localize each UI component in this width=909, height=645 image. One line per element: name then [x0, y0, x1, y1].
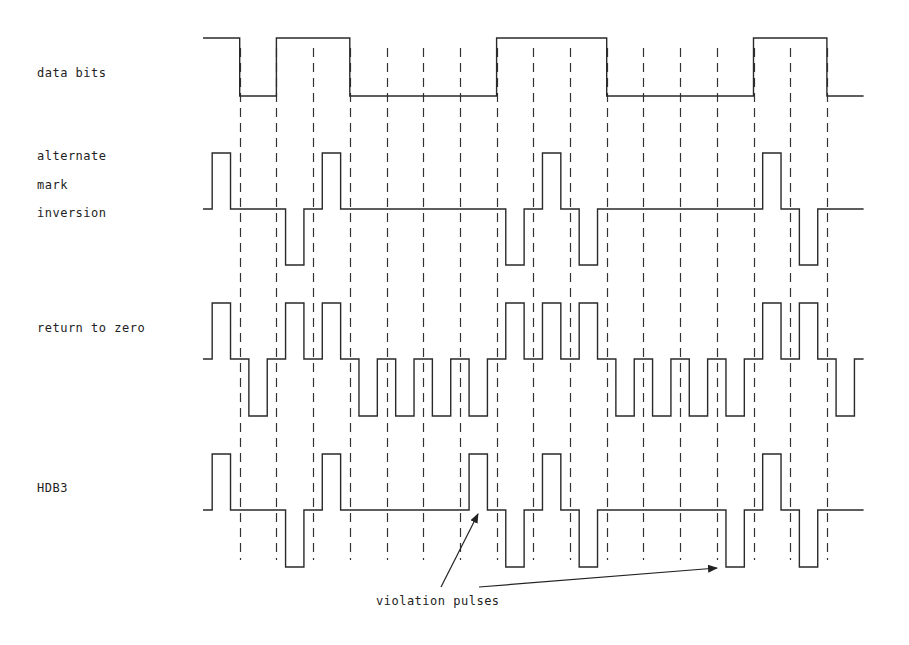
annotation-violation-pulses: violation pulses — [376, 595, 500, 607]
label-ami-line1: alternate — [37, 150, 107, 162]
bit-boundary-gridlines — [241, 48, 828, 560]
label-return-to-zero: return to zero — [37, 322, 145, 334]
arrow-icon — [479, 568, 717, 587]
label-ami-line3: inversion — [37, 207, 107, 219]
label-data-bits: data bits — [37, 67, 107, 79]
label-ami-line2: mark — [37, 179, 68, 191]
label-hdb3: HDB3 — [37, 482, 68, 494]
arrow-icon — [441, 514, 478, 587]
